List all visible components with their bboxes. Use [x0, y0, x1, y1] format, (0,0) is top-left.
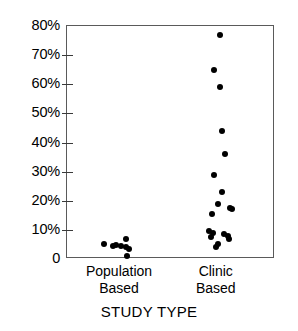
category-label-line: Based [67, 280, 171, 297]
y-axis-tick-labels: 80%70%60%50%40%30%20%10%0 [0, 25, 60, 258]
data-point [226, 236, 232, 242]
y-axis-tick-label: 40% [2, 135, 60, 149]
x-axis-category-labels: PopulationBasedClinicBased [66, 263, 274, 307]
data-point [211, 67, 217, 73]
data-point [219, 128, 225, 134]
data-point [101, 241, 107, 247]
data-point [124, 253, 130, 259]
data-point [209, 211, 215, 217]
x-axis-category-clinic-based: ClinicBased [164, 263, 268, 297]
data-point [213, 244, 219, 250]
category-label-line: Clinic [164, 263, 268, 280]
y-axis-tick-label: 30% [2, 164, 60, 178]
data-point [126, 246, 132, 252]
y-axis-tick-label: 80% [2, 18, 60, 32]
data-point [211, 172, 217, 178]
data-point [215, 201, 221, 207]
y-axis-tick-label: 0 [2, 251, 60, 265]
data-point [222, 151, 228, 157]
category-label-line: Based [164, 280, 268, 297]
data-point [208, 234, 214, 240]
category-label-line: Population [67, 263, 171, 280]
y-axis-tick-label: 70% [2, 47, 60, 61]
y-axis-tick-label: 20% [2, 193, 60, 207]
y-axis-tick-label: 50% [2, 105, 60, 119]
y-axis-tick-label: 60% [2, 76, 60, 90]
data-point [219, 189, 225, 195]
plot-area [67, 26, 273, 257]
data-point [217, 84, 223, 90]
dot-plot-chart: 80%70%60%50%40%30%20%10%0 PopulationBase… [0, 0, 298, 331]
y-axis-tick-label: 10% [2, 222, 60, 236]
x-axis-title: STUDY TYPE [0, 303, 298, 320]
data-point [123, 236, 129, 242]
plot-frame [66, 25, 274, 258]
data-point [229, 206, 235, 212]
data-point [217, 32, 223, 38]
x-axis-category-population-based: PopulationBased [67, 263, 171, 297]
